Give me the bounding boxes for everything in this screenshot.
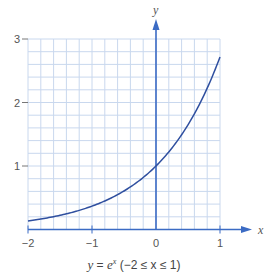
grid	[28, 39, 220, 230]
x-tick-label: 1	[217, 237, 223, 249]
x-axis-arrow-icon	[241, 226, 252, 233]
exp-chart: 123 −2−101 x y	[0, 0, 268, 274]
x-tick-label: 0	[153, 237, 159, 249]
y-axis-arrow-icon	[153, 19, 160, 30]
y-axis-label: y	[152, 3, 159, 17]
caption-domain: (−2 ≤ x ≤ 1)	[116, 258, 180, 272]
x-tick-label: −2	[22, 237, 35, 249]
x-axis-label: x	[257, 223, 264, 237]
x-tick-label: −1	[86, 237, 99, 249]
y-tick-label: 2	[14, 97, 20, 109]
figure-caption: y = ex (−2 ≤ x ≤ 1)	[0, 257, 268, 273]
caption-eq: =	[93, 258, 107, 272]
y-tick-label: 3	[14, 33, 20, 45]
y-tick-label: 1	[14, 160, 20, 172]
exp-curve	[28, 57, 220, 221]
y-ticks: 123	[14, 33, 28, 172]
